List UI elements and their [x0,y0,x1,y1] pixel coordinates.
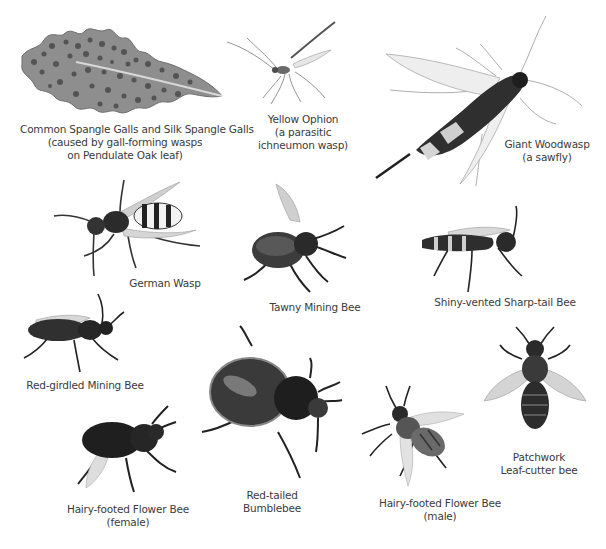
hairy-footed-flower-bee-female-image [72,402,182,494]
red-tailed-bumblebee-image [200,322,350,482]
hairy-footed-flower-bee-male-label: Hairy-footed Flower Bee (male) [370,497,510,523]
shiny-vented-sharp-tail-bee-label: Shiny-vented Sharp-tail Bee [420,296,590,309]
yellow-ophion-label: Yellow Ophion (a parasitic ichneumon was… [248,113,358,152]
red-girdled-mining-bee-image [18,292,128,374]
tawny-mining-bee-image [240,180,350,295]
hairy-footed-flower-bee-female-label: Hairy-footed Flower Bee (female) [58,503,198,529]
german-wasp-label: German Wasp [120,277,210,290]
tawny-mining-bee-label: Tawny Mining Bee [260,301,370,314]
red-girdled-mining-bee-label: Red-girdled Mining Bee [10,379,160,392]
spangle-galls-label: Common Spangle Galls and Silk Spangle Ga… [20,123,230,162]
hairy-footed-flower-bee-male-image [360,384,470,489]
giant-woodwasp-label: Giant Woodwasp (a sawfly) [492,138,602,164]
patchwork-leaf-cutter-bee-label: Patchwork Leaf-cutter bee [484,451,594,477]
yellow-ophion-image [225,18,345,108]
german-wasp-image [50,172,210,278]
red-tailed-bumblebee-label: Red-tailed Bumblebee [222,489,322,515]
oak-leaf-galls-image [16,24,228,119]
shiny-vented-sharp-tail-bee-image [412,204,532,294]
patchwork-leaf-cutter-bee-image [480,325,590,437]
